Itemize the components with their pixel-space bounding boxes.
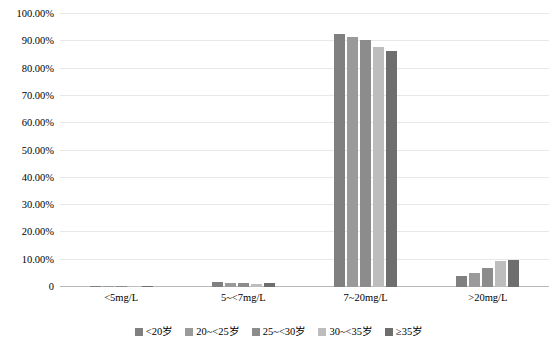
x-tick-label: >20mg/L (427, 291, 549, 305)
legend-label: <20岁 (146, 326, 172, 337)
y-tick-label: 0 (49, 282, 54, 292)
x-tick-label: <5mg/L (60, 291, 182, 305)
bar[interactable] (103, 286, 114, 287)
chart-legend: <20岁20~<25岁25~<30岁30~<35岁≥35岁 (0, 326, 557, 337)
bar[interactable] (334, 34, 345, 287)
bar[interactable] (495, 261, 506, 287)
bar[interactable] (225, 283, 236, 287)
y-tick-label: 70.00% (22, 91, 54, 101)
legend-swatch-icon (385, 328, 393, 336)
y-tick-label: 100.00% (16, 9, 54, 19)
y-tick-label: 90.00% (22, 36, 54, 46)
y-tick-label: 50.00% (22, 146, 54, 156)
legend-item[interactable]: 20~<25岁 (185, 326, 239, 337)
bar-group (182, 14, 304, 287)
y-tick-label: 60.00% (22, 118, 54, 128)
bar[interactable] (251, 284, 262, 287)
bar[interactable] (373, 47, 384, 287)
y-tick-label: 30.00% (22, 200, 54, 210)
bar-group (60, 14, 182, 287)
legend-label: 30~<35岁 (329, 326, 372, 337)
x-tick-label: 7~20mg/L (305, 291, 427, 305)
bar[interactable] (347, 37, 358, 287)
legend-swatch-icon (318, 328, 326, 336)
bar-group (427, 14, 549, 287)
legend-label: 25~<30岁 (263, 326, 306, 337)
legend-label: 20~<25岁 (196, 326, 239, 337)
bar[interactable] (90, 286, 101, 287)
bar-chart: 010.00%20.00%30.00%40.00%50.00%60.00%70.… (0, 0, 557, 359)
bars-layer (60, 14, 549, 287)
legend-swatch-icon (185, 328, 193, 336)
legend-item[interactable]: 25~<30岁 (252, 326, 306, 337)
bar[interactable] (456, 276, 467, 287)
legend-item[interactable]: 30~<35岁 (318, 326, 372, 337)
y-tick-label: 10.00% (22, 255, 54, 265)
bar[interactable] (264, 283, 275, 287)
bar[interactable] (482, 268, 493, 287)
bar[interactable] (116, 286, 127, 287)
x-axis: <5mg/L5~<7mg/L7~20mg/L>20mg/L (60, 291, 549, 309)
legend-label: ≥35岁 (396, 326, 422, 337)
y-tick-label: 40.00% (22, 173, 54, 183)
y-tick-label: 20.00% (22, 227, 54, 237)
bar[interactable] (142, 286, 153, 287)
legend-swatch-icon (252, 328, 260, 336)
x-tick-label: 5~<7mg/L (182, 291, 304, 305)
legend-item[interactable]: ≥35岁 (385, 326, 422, 337)
bar[interactable] (469, 273, 480, 287)
bar[interactable] (360, 40, 371, 287)
bar[interactable] (212, 282, 223, 287)
legend-swatch-icon (135, 328, 143, 336)
bar[interactable] (386, 51, 397, 287)
legend-item[interactable]: <20岁 (135, 326, 172, 337)
bar-group (305, 14, 427, 287)
bar[interactable] (238, 283, 249, 287)
y-axis: 010.00%20.00%30.00%40.00%50.00%60.00%70.… (0, 0, 58, 300)
y-tick-label: 80.00% (22, 64, 54, 74)
plot-area (60, 14, 549, 287)
bar[interactable] (129, 286, 140, 287)
bar[interactable] (508, 260, 519, 287)
